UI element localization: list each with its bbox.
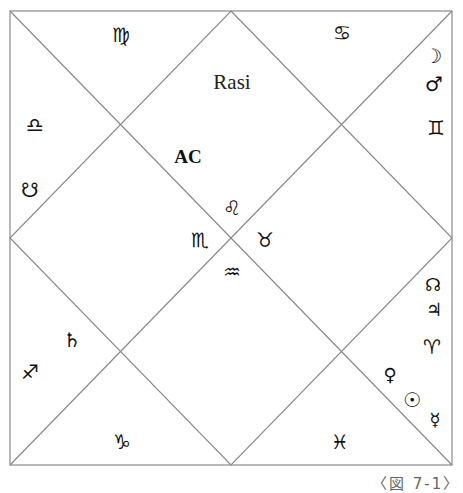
planet-mars-icon: ♂ (425, 74, 443, 94)
planet-sun-icon: ☉ (403, 390, 421, 410)
sign-pisces-icon: ♓ (331, 432, 349, 452)
sign-aries-icon: ♈ (423, 337, 441, 357)
sign-gemini-icon: ♊ (427, 118, 445, 138)
planet-saturn-icon: ♄ (63, 330, 81, 350)
sign-sagittarius-icon: ♐ (21, 362, 39, 382)
sign-virgo-icon: ♍ (112, 25, 130, 45)
planet-ketu-icon: ☋ (21, 180, 39, 200)
planet-rahu-icon: ☊ (425, 276, 441, 294)
sign-taurus-icon: ♉ (256, 230, 274, 250)
ascendant-label: AC (174, 146, 201, 168)
figure-caption: 〈図 7-1〉 (372, 472, 460, 493)
sign-scorpio-icon: ♏ (191, 230, 209, 250)
planet-mercury-icon: ☿ (429, 411, 440, 429)
planet-moon-icon: ☽ (424, 46, 442, 66)
sign-cancer-icon: ♋ (333, 23, 351, 43)
sign-leo-icon: ♌ (223, 198, 241, 218)
sign-capricorn-icon: ♑ (113, 432, 131, 452)
planet-venus-icon: ♀ (383, 366, 396, 384)
chart-title: Rasi (213, 70, 250, 95)
planet-jupiter-icon: ♃ (426, 301, 442, 319)
sign-libra-icon: ♎ (26, 115, 44, 135)
sign-aquarius-icon: ♒ (223, 262, 241, 282)
